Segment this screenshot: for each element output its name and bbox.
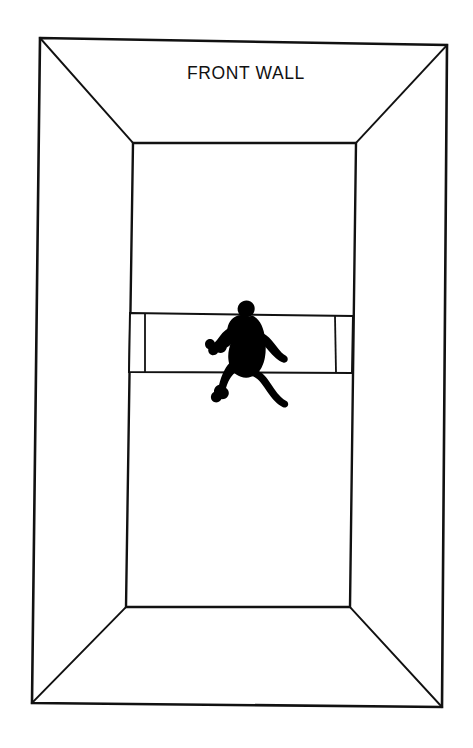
court-diagram-canvas: FRONT WALL <box>0 0 473 748</box>
front-wall-label: FRONT WALL <box>187 63 305 83</box>
squash-court-perspective-diagram: FRONT WALL <box>0 0 473 748</box>
service-band-divider-right <box>335 316 336 373</box>
